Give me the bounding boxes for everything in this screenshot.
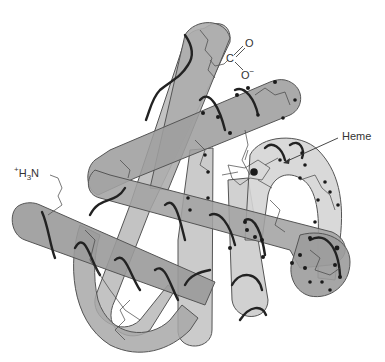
heme-label: Heme (342, 131, 371, 142)
carboxyl-c-label: C (226, 53, 234, 64)
carboxyl-o-top-label: O (245, 38, 254, 49)
heme-iron-atom (250, 168, 258, 176)
n-terminus-label: +H3N (14, 166, 39, 182)
carboxyl-bonds (234, 46, 245, 70)
myoglobin-ribbon-diagram: .tube { stroke: #555; stroke-width: 1; s… (0, 0, 385, 362)
carboxyl-o-bottom-label: O− (241, 68, 254, 81)
tube-right-blob (291, 233, 350, 297)
